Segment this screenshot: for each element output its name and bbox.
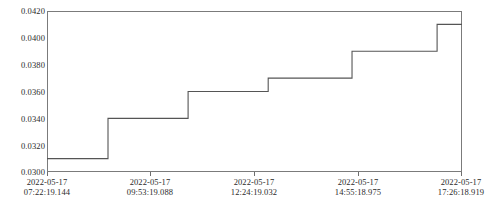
x-axis-tick-label: 2022-05-17 14:55:18.975 (310, 177, 406, 197)
y-axis-tick-label: 0.0400 (1, 34, 45, 43)
x-axis-tick-label: 2022-05-17 09:53:19.088 (102, 177, 198, 197)
y-axis-tick-label: 0.0320 (1, 142, 45, 151)
x-axis-tick-time: 17:26:18.919 (413, 187, 489, 197)
y-axis-tick-label: 0.0420 (1, 7, 45, 16)
x-axis-tick-mark (47, 172, 48, 176)
x-axis-tick-time: 07:22:19.144 (0, 187, 95, 197)
x-axis-tick-date: 2022-05-17 (206, 177, 302, 187)
y-axis-tick-label: 0.0340 (1, 115, 45, 124)
x-axis-tick-mark (461, 172, 462, 176)
x-axis-tick-time: 12:24:19.032 (206, 187, 302, 197)
x-axis-tick-mark (358, 172, 359, 176)
y-axis-tick-label: 0.0300 (1, 168, 45, 177)
x-axis-tick-mark (254, 172, 255, 176)
x-axis-tick-label: 2022-05-17 12:24:19.032 (206, 177, 302, 197)
data-series-step-line (47, 11, 462, 172)
series-polyline (47, 24, 462, 158)
x-axis-tick-time: 09:53:19.088 (102, 187, 198, 197)
x-axis-tick-date: 2022-05-17 (0, 177, 95, 187)
y-axis-label-group: 0.0420 0.0400 0.0380 0.0360 0.0340 0.032… (0, 0, 45, 204)
y-axis-tick-label: 0.0360 (1, 88, 45, 97)
x-axis-tick-time: 14:55:18.975 (310, 187, 406, 197)
x-axis-tick-date: 2022-05-17 (413, 177, 489, 187)
x-axis-tick-mark (150, 172, 151, 176)
x-axis-tick-date: 2022-05-17 (102, 177, 198, 187)
x-axis-tick-label: 2022-05-17 07:22:19.144 (0, 177, 95, 197)
y-axis-tick-label: 0.0380 (1, 61, 45, 70)
x-axis-tick-label: 2022-05-17 17:26:18.919 (413, 177, 489, 197)
x-axis-tick-date: 2022-05-17 (310, 177, 406, 187)
